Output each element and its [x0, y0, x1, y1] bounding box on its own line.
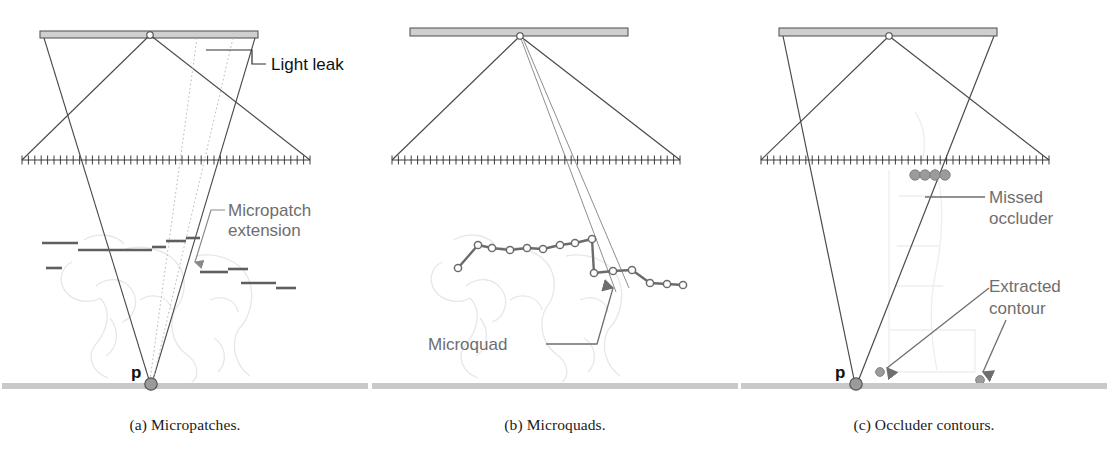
microquad-label: Microquad	[428, 335, 507, 354]
receiver-point-label: p	[835, 363, 845, 382]
caption-b: (b) Microquads.	[370, 416, 740, 434]
ground-plane	[372, 383, 738, 389]
receiver-point-label: p	[131, 363, 141, 382]
panel-microquads: Microquad (b) Microquads.	[370, 0, 740, 458]
micropatch-extension-label-line2: extension	[228, 221, 301, 240]
shadow-map-ruler	[761, 156, 1049, 165]
microquad-vertex	[663, 280, 670, 287]
caption-a: (a) Micropatches.	[0, 416, 370, 434]
ground-plane	[741, 383, 1107, 389]
missed-occluder-dot	[940, 170, 950, 180]
microquad-vertex	[454, 264, 461, 271]
missed-occluder-dot	[910, 170, 920, 180]
microquad-leader	[546, 288, 613, 344]
microquad-vertex	[488, 244, 495, 251]
micropatch-segments	[42, 238, 296, 288]
missed-occluder-dot	[920, 170, 930, 180]
light-leak-leader	[206, 50, 266, 64]
panel-b-canvas: Microquad	[370, 0, 740, 410]
microquad-vertex	[506, 246, 513, 253]
microquad-vertex	[588, 235, 595, 242]
extracted-contour-dots	[876, 368, 985, 385]
microquad-vertex	[590, 269, 597, 276]
microquad-vertex	[556, 241, 563, 248]
panel-a-canvas: Light leak Micropatch extension p	[0, 0, 370, 410]
panel-c-canvas: Missed occluder Extracted contour p	[739, 0, 1109, 410]
missed-occluder-label-line2: occluder	[989, 209, 1054, 228]
micropatch-extension-leader	[195, 210, 225, 262]
receiver-point	[145, 378, 157, 390]
figure-root: Light leak Micropatch extension p (a) Mi…	[0, 0, 1109, 458]
ghost-model-watermark	[61, 235, 251, 382]
microquad-vertex	[523, 244, 530, 251]
microquad-vertex	[646, 279, 653, 286]
microquad-vertex	[609, 267, 616, 274]
missed-occluder-dots	[910, 170, 950, 180]
extracted-contour-label-line1: Extracted	[989, 277, 1061, 296]
light-source-point	[147, 32, 153, 38]
microquad-vertex	[628, 266, 635, 273]
light-source-point	[517, 33, 523, 39]
microquad-vertex	[571, 239, 578, 246]
microquad-vertex	[474, 241, 481, 248]
shadow-map-ruler	[392, 156, 680, 165]
light-source-point	[886, 33, 892, 39]
ground-plane	[2, 383, 368, 389]
panel-occluder-contours: Missed occluder Extracted contour p (c) …	[739, 0, 1109, 458]
missed-occluder-label-line1: Missed	[989, 188, 1043, 207]
shadow-map-ruler	[22, 156, 310, 165]
missed-occluder-dot	[930, 170, 940, 180]
panel-micropatches: Light leak Micropatch extension p (a) Mi…	[0, 0, 370, 458]
microquad-vertex	[679, 281, 686, 288]
light-beam-lines	[392, 36, 680, 160]
microquad-vertex	[539, 245, 546, 252]
receiver-point	[850, 378, 862, 390]
extracted-contour-label-line2: contour	[989, 299, 1046, 318]
micropatch-extension-label-line1: Micropatch	[228, 201, 311, 220]
light-leak-label: Light leak	[271, 55, 344, 74]
light-leak-dotted-cone	[150, 38, 233, 380]
caption-c: (c) Occluder contours.	[739, 416, 1109, 434]
extracted-contour-dot	[876, 368, 885, 377]
